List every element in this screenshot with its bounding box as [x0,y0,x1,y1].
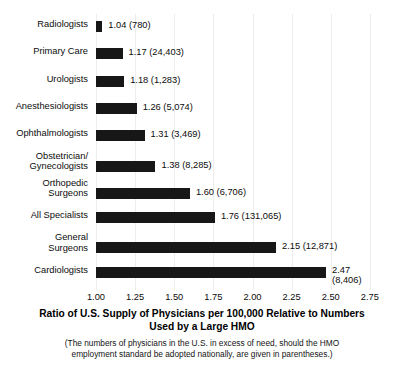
x-tick-label: 1.75 [193,292,233,302]
bar-row: Ophthalmologists1.31 (3,469) [0,125,404,153]
bar [96,161,155,172]
bar-row: Obstetrician/ Gynecologists1.38 (8,285) [0,153,404,181]
category-label: General Surgeons [0,232,88,253]
axis-title: Ratio of U.S. Supply of Physicians per 1… [18,308,386,333]
bar [96,267,326,278]
x-tick-label: 1.00 [76,292,116,302]
bar-chart: Radiologists1.04 (780)Primary Care1.17 (… [0,0,404,366]
category-label: Primary Care [0,46,88,57]
bar-row: Urologists1.18 (1,283) [0,71,404,99]
axis-title-line-1: Ratio of U.S. Supply of Physicians per 1… [18,308,386,321]
bar [96,48,123,59]
bar [96,188,190,199]
bar-row: Radiologists1.04 (780) [0,16,404,44]
x-axis: 1.001.251.501.752.002.252.502.75 [96,292,384,306]
x-tick-label: 2.00 [233,292,273,302]
bar-row: Orthopedic Surgeons1.60 (6,706) [0,180,404,208]
bar-row: All Specialists1.76 (131,065) [0,207,404,235]
footnote: (The numbers of physicians in the U.S. i… [28,338,376,360]
axis-title-line-2: Used by a Large HMO [18,321,386,334]
category-label: Cardiologists [0,265,88,276]
bar [96,242,276,253]
category-label: Radiologists [0,19,88,30]
value-label: 1.18 (1,283) [130,75,180,85]
x-tick-label: 1.25 [115,292,155,302]
value-label: 1.17 (24,403) [129,47,184,57]
value-label: 1.38 (8,285) [161,160,211,170]
value-label: 1.60 (6,706) [196,187,246,197]
value-label: 1.31 (3,469) [151,129,201,139]
bar-row: Cardiologists2.47 (8,406) [0,262,404,290]
category-label: Anesthesiologists [0,101,88,112]
value-label: 2.47 (8,406) [332,265,361,286]
footnote-line-2: employment standard be adopted nationall… [28,349,376,360]
bar [96,130,145,141]
category-label: Urologists [0,74,88,85]
category-label: Obstetrician/ Gynecologists [0,151,88,172]
bar-row: General Surgeons2.15 (12,871) [0,234,404,262]
x-tick-label: 1.50 [154,292,194,302]
bar-row: Primary Care1.17 (24,403) [0,43,404,71]
value-label: 1.04 (780) [108,20,150,30]
bar-rows: Radiologists1.04 (780)Primary Care1.17 (… [0,0,404,290]
x-tick-label: 2.75 [350,292,390,302]
value-label: 2.15 (12,871) [282,241,337,251]
category-label: Ophthalmologists [0,128,88,139]
bar [96,212,215,223]
category-label: All Specialists [0,210,88,221]
x-tick-label: 2.50 [311,292,351,302]
bar-row: Anesthesiologists1.26 (5,074) [0,98,404,126]
category-label: Orthopedic Surgeons [0,178,88,199]
bar [96,103,137,114]
bar [96,21,102,32]
value-label: 1.76 (131,065) [221,211,281,221]
value-label: 1.26 (5,074) [143,102,193,112]
bar [96,76,124,87]
x-tick-label: 2.25 [272,292,312,302]
footnote-line-1: (The numbers of physicians in the U.S. i… [28,338,376,349]
